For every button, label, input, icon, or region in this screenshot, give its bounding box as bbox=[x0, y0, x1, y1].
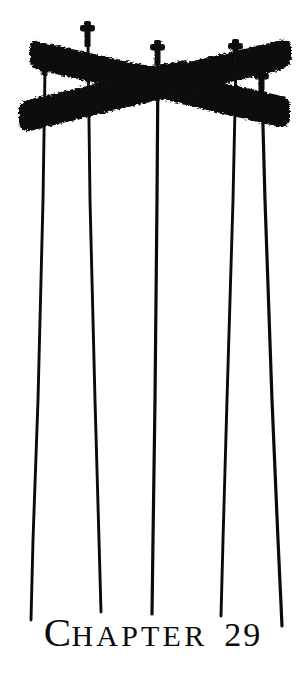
chapter-number: 29 bbox=[224, 618, 262, 652]
chapter-opening-page: Chapter29 bbox=[0, 0, 306, 697]
wire-2 bbox=[88, 44, 101, 612]
wires-group bbox=[31, 44, 282, 626]
insulator-pin-3 bbox=[150, 40, 165, 65]
wire-5 bbox=[262, 90, 282, 626]
wire-3 bbox=[152, 62, 158, 614]
wire-4 bbox=[221, 62, 236, 616]
chapter-word-label: hapter bbox=[71, 621, 207, 651]
chapter-drop-cap: C bbox=[44, 612, 72, 653]
chapter-illustration bbox=[0, 0, 306, 640]
wire-1 bbox=[31, 70, 45, 620]
insulator-pin-2 bbox=[80, 21, 95, 47]
utility-pole-crossarms-illustration bbox=[0, 0, 306, 640]
chapter-heading: Chapter29 bbox=[0, 612, 306, 672]
